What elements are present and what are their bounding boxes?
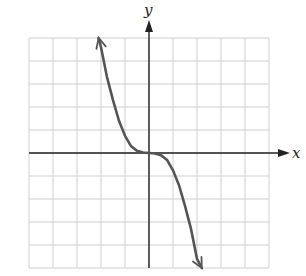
graph: x y xyxy=(0,0,306,276)
x-axis-label: x xyxy=(292,144,301,162)
x-axis-arrow-icon xyxy=(278,149,290,157)
y-axis-arrow-icon xyxy=(145,20,153,32)
y-axis-label: y xyxy=(143,1,153,19)
